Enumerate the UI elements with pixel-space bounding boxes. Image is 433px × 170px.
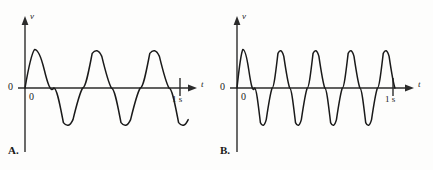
panel-label-b: B. — [220, 145, 230, 156]
x-origin-label-b: 0 — [241, 92, 246, 102]
x-axis-end-tick-label-a: 1 s — [172, 95, 182, 104]
x-axis-label-b: t — [418, 80, 421, 89]
y-origin-label-a: 0 — [8, 82, 13, 92]
x-axis-label-a: t — [201, 80, 204, 89]
y-axis-label-b: v — [242, 12, 246, 21]
y-axis-arrowhead-b — [234, 16, 241, 25]
x-origin-label-a: 0 — [29, 92, 34, 102]
x-axis-arrowhead-b — [405, 85, 414, 92]
panel-b-plot — [216, 0, 433, 170]
panel-label-a: A. — [8, 145, 19, 156]
y-axis-arrowhead-a — [22, 16, 29, 25]
x-axis-end-tick-label-b: 1 s — [385, 95, 395, 104]
x-axis-arrowhead-a — [188, 85, 197, 92]
y-origin-label-b: 0 — [220, 82, 225, 92]
panel-a-plot — [0, 0, 216, 170]
panel-b: v t 0 0 1 s B. — [216, 0, 433, 170]
panel-a: v t 0 0 1 s A. — [0, 0, 216, 170]
waveform-comparison-figure: v t 0 0 1 s A. v t 0 0 1 s B. — [0, 0, 433, 170]
y-axis-label-a: v — [30, 12, 34, 21]
